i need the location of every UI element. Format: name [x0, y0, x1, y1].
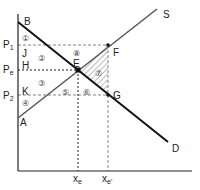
label-h: H: [22, 60, 29, 71]
label-e: E: [73, 58, 80, 69]
label-s: S: [163, 9, 170, 20]
label-p1: P1: [3, 39, 14, 51]
region-4: ④: [22, 99, 29, 108]
label-j: J: [22, 48, 27, 59]
point-g: [106, 93, 110, 97]
label-g: G: [113, 90, 121, 101]
label-d: D: [172, 143, 179, 154]
region-3: ③: [38, 79, 45, 88]
label-pe: Pe: [3, 64, 14, 76]
region-2: ②: [38, 54, 45, 63]
region-6: ⑥: [83, 88, 90, 97]
supply-demand-diagram: B A S D E F G J H K P1 Pe P2 xe xe' ① ② …: [0, 0, 200, 190]
region-5: ⑤: [62, 88, 69, 97]
label-xe: xe: [73, 173, 82, 185]
supply-curve: [18, 9, 157, 118]
label-k: K: [22, 86, 29, 97]
label-p2: P2: [3, 90, 14, 102]
label-xe-prime: xe': [102, 173, 112, 185]
label-b: B: [24, 16, 31, 27]
label-f: F: [113, 47, 119, 58]
region-1: ①: [22, 34, 29, 43]
region-7: ⑦: [95, 69, 102, 78]
point-f: [106, 43, 110, 47]
label-a: A: [20, 117, 27, 128]
region-8: ⑧: [73, 49, 80, 58]
